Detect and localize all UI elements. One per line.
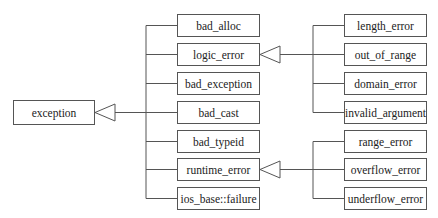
class-box-overflow-error: overflow_error [344, 158, 427, 181]
class-box-range-error: range_error [344, 130, 427, 153]
class-box-runtime-error: runtime_error [177, 158, 260, 181]
class-box-invalid-argument: invalid_argument [344, 101, 427, 124]
class-box-logic-error: logic_error [177, 43, 260, 66]
class-box-length-error: length_error [344, 14, 427, 37]
exception-hierarchy-diagram: exception bad_alloc logic_error bad_exce… [0, 0, 438, 218]
class-box-bad-cast: bad_cast [177, 101, 260, 124]
inheritance-arrow-icon [260, 161, 280, 178]
class-box-exception: exception [13, 100, 95, 125]
class-box-bad-alloc: bad_alloc [177, 14, 260, 37]
inheritance-arrow-icon [95, 104, 115, 121]
inheritance-arrow-icon [260, 46, 280, 63]
class-box-bad-exception: bad_exception [177, 72, 260, 95]
class-box-ios-base-failure: ios_base::failure [177, 187, 260, 210]
class-box-out-of-range: out_of_range [344, 43, 427, 66]
class-box-domain-error: domain_error [344, 72, 427, 95]
class-box-bad-typeid: bad_typeid [177, 130, 260, 153]
class-box-underflow-error: underflow_error [344, 187, 427, 210]
